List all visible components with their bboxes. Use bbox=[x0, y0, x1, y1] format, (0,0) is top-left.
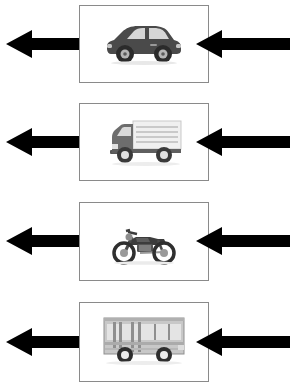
diagram-row-bus bbox=[0, 302, 291, 382]
arrow-right-inbound-car bbox=[196, 29, 290, 59]
vehicle-panel-bus bbox=[79, 302, 209, 382]
vehicle-arrow-diagram bbox=[0, 0, 291, 388]
truck-illustration bbox=[104, 117, 184, 167]
car-illustration bbox=[105, 22, 183, 66]
arrow-right-inbound-bus bbox=[196, 327, 290, 357]
vehicle-panel-car bbox=[79, 5, 209, 83]
diagram-row-truck bbox=[0, 103, 291, 181]
bus-illustration bbox=[100, 314, 188, 366]
arrow-right-inbound-motorcycle bbox=[196, 226, 290, 256]
vehicle-panel-motorcycle bbox=[79, 202, 209, 281]
vehicle-panel-truck bbox=[79, 103, 209, 181]
motorcycle-illustration bbox=[106, 219, 182, 265]
diagram-row-car bbox=[0, 5, 291, 83]
diagram-row-motorcycle bbox=[0, 202, 291, 281]
arrow-right-inbound-truck bbox=[196, 127, 290, 157]
